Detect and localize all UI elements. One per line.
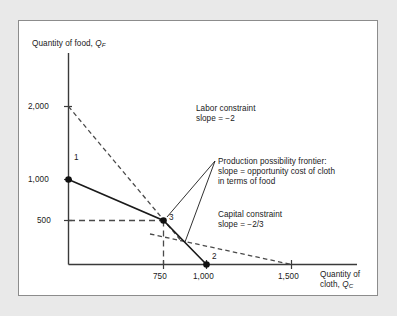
x-axis-title-line1: Quantity of	[320, 270, 360, 280]
y-tick-label-1000: 1,000	[28, 175, 49, 185]
point-label-3: 3	[169, 213, 174, 223]
labor-constraint-label-line2: slope = −2	[196, 114, 235, 124]
ppf-line	[69, 180, 207, 265]
figure-panel: Quantity of food, QF 2,000 1,000 500 750…	[18, 20, 378, 296]
chart-plot-area: Quantity of food, QF 2,000 1,000 500 750…	[19, 21, 377, 295]
capital-constraint-label-line1: Capital constraint	[218, 210, 282, 220]
point-label-1: 1	[74, 153, 79, 163]
ppf-leader-line-upper	[167, 161, 215, 217]
ppf-label-line2: slope = opportunity cost of cloth	[218, 167, 335, 177]
x-axis-subscript: C	[349, 282, 354, 289]
ppf-label-line3: in terms of food	[218, 177, 275, 187]
point-label-2: 2	[212, 252, 217, 262]
y-tick-label-2000: 2,000	[28, 102, 49, 112]
ppf-leader-line-lower	[185, 161, 215, 242]
marker-point-1	[65, 176, 72, 183]
y-axis-subscript: F	[102, 41, 106, 48]
ppf-label-line1: Production possibility frontier:	[218, 157, 327, 167]
capital-constraint-label-line2: slope = −2/3	[218, 220, 264, 230]
x-axis-title-line2: cloth, QC	[320, 280, 353, 291]
marker-point-2	[203, 261, 210, 268]
x-tick-label-1500: 1,500	[278, 272, 299, 282]
capital-constraint-line	[150, 234, 292, 265]
y-axis-title: Quantity of food, QF	[32, 39, 106, 50]
x-tick-label-1000: 1,000	[193, 272, 214, 282]
labor-constraint-label-line1: Labor constraint	[196, 104, 256, 114]
x-tick-label-750: 750	[153, 272, 167, 282]
y-tick-label-500: 500	[37, 216, 51, 226]
marker-point-3	[160, 217, 167, 224]
